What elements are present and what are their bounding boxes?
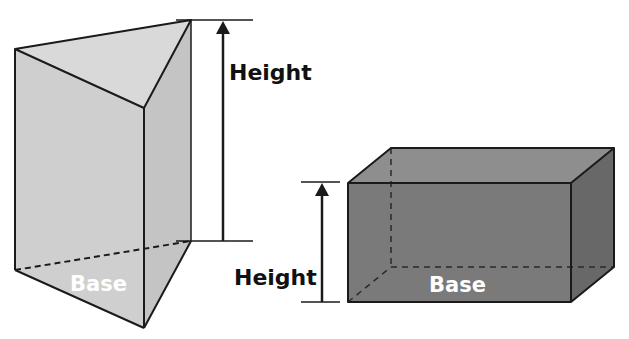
prism-height-label: Height (229, 60, 312, 85)
arrow-up-icon (315, 183, 329, 196)
box-base-label: Base (429, 273, 486, 297)
diagram-canvas: Height Base Height Base (0, 0, 629, 339)
box-height-label: Height (234, 265, 317, 290)
prism-base-label: Base (70, 272, 127, 296)
box-top-face (348, 148, 614, 183)
arrow-up-icon (216, 21, 230, 34)
